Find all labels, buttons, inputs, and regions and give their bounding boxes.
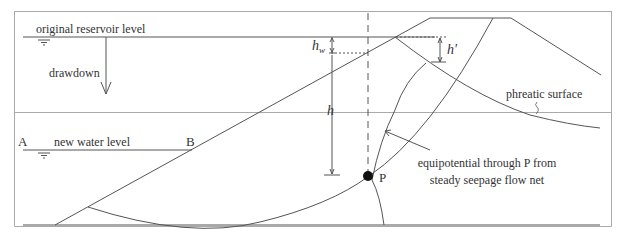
original-reservoir-level-label: original reservoir level — [36, 22, 146, 36]
drawdown-label: drawdown — [49, 66, 100, 80]
h-label: h — [327, 103, 334, 118]
diagram-frame: original reservoir level drawdown A new … — [0, 0, 622, 245]
upstream-slope — [55, 18, 430, 225]
equipotential-line — [372, 63, 426, 225]
equipotential-pointer-arrow-icon — [385, 130, 430, 150]
water-level-symbol-icon — [38, 153, 50, 158]
drawdown-diagram: original reservoir level drawdown A new … — [0, 0, 622, 245]
drawdown-arrow-icon — [101, 37, 111, 94]
hw-dimension-icon — [329, 37, 335, 53]
phreatic-surface-line — [395, 37, 600, 128]
downstream-slope — [511, 18, 601, 75]
water-level-symbol-icon — [38, 40, 50, 45]
point-p-marker — [363, 171, 373, 181]
equipotential-label-line2: steady seepage flow net — [430, 173, 545, 187]
equipotential-label-line1: equipotential through P from — [418, 156, 557, 170]
point-b-label: B — [186, 134, 195, 149]
phreatic-surface-label: phreatic surface — [506, 87, 582, 101]
h-prime-dimension-icon — [431, 38, 446, 62]
slip-surface — [88, 18, 493, 228]
new-water-level-label: new water level — [54, 135, 131, 149]
h-prime-label: h′ — [447, 42, 458, 57]
point-a-label: A — [18, 134, 28, 149]
hw-label: hw — [312, 38, 325, 55]
point-p-label: P — [379, 170, 386, 185]
